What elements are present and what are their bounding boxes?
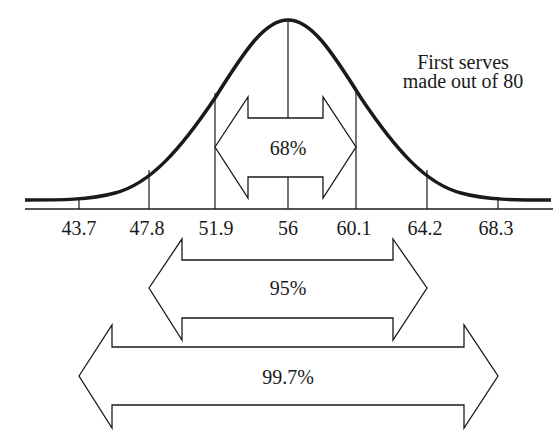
annotation-line-2: made out of 80 bbox=[403, 70, 524, 92]
tick-label: 51.9 bbox=[199, 217, 234, 239]
tick-label: 60.1 bbox=[337, 217, 372, 239]
label-99-7-percent: 99.7% bbox=[262, 366, 314, 388]
normal-curve-diagram: 68% First serves made out of 80 43.7 47.… bbox=[0, 0, 558, 445]
tick-label: 64.2 bbox=[408, 217, 443, 239]
tick-label: 43.7 bbox=[62, 217, 97, 239]
tick-label: 68.3 bbox=[479, 217, 514, 239]
tick-label: 56 bbox=[278, 217, 298, 239]
label-68-percent: 68% bbox=[270, 137, 307, 159]
label-95-percent: 95% bbox=[270, 277, 307, 299]
tick-label: 47.8 bbox=[130, 217, 165, 239]
